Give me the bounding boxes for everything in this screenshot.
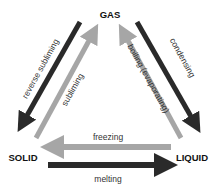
solid-label: SOLID: [8, 152, 37, 163]
gas-label: GAS: [100, 9, 121, 20]
freezing-label: freezing: [93, 132, 124, 142]
boiling-label: boiling (evaporating): [126, 42, 172, 114]
condensing-label: condensing: [168, 36, 198, 79]
diagram-svg: GAS SOLID LIQUID reverse subliming subli…: [0, 0, 220, 192]
phase-change-diagram: GAS SOLID LIQUID reverse subliming subli…: [0, 0, 220, 192]
liquid-label: LIQUID: [176, 152, 208, 163]
melting-label: melting: [94, 174, 122, 184]
